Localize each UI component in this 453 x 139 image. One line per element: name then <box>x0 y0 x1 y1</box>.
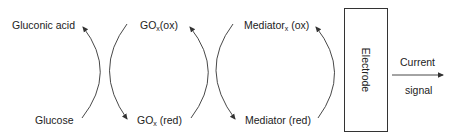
arrow-mediator-ox-to-mediator-red <box>216 24 235 119</box>
arrow-gox-ox-to-gox-red <box>110 24 128 119</box>
electrode-label: Electrode <box>360 48 372 92</box>
label-gox-ox: GOx(ox) <box>140 19 178 35</box>
arrow-gox-red-to-gox-ox <box>190 27 208 118</box>
gox-ox-main: GO <box>140 19 156 31</box>
gox-red-suffix: (red) <box>157 114 182 126</box>
label-signal: signal <box>405 84 432 96</box>
label-mediator-red: Mediator (red) <box>245 114 311 126</box>
gox-ox-suffix: (ox) <box>160 19 178 31</box>
arrow-mediator-red-to-mediator-ox <box>316 27 335 118</box>
gox-red-main: GO <box>137 114 153 126</box>
diagram-canvas: Gluconic acid Glucose GOx(ox) GOx (red) … <box>0 0 453 139</box>
mediator-ox-main: Mediator <box>244 19 285 31</box>
label-mediator-ox: Mediatorx (ox) <box>244 19 309 35</box>
arrow-glucose-to-gluconic-acid <box>82 27 100 118</box>
label-gluconic-acid: Gluconic acid <box>12 19 75 31</box>
mediator-ox-suffix: (ox) <box>288 19 309 31</box>
label-current: Current <box>400 56 435 68</box>
label-glucose: Glucose <box>35 114 74 126</box>
electrode-box: Electrode <box>344 8 388 132</box>
label-gox-red: GOx (red) <box>137 114 182 130</box>
